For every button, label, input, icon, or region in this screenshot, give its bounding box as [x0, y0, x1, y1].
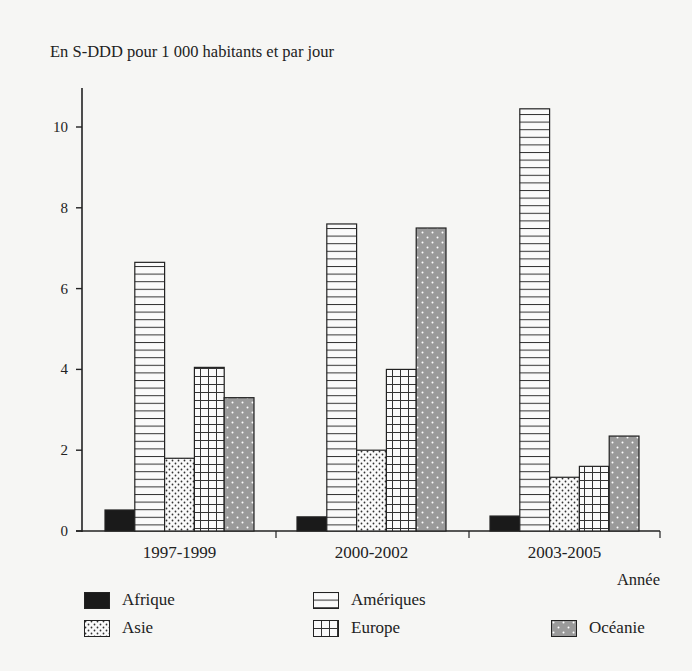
- legend-label: Océanie: [589, 618, 645, 638]
- x-category-label: 2000-2002: [335, 543, 409, 562]
- bar-chart: 0246810 1997-19992000-20022003-2005Année: [0, 0, 692, 671]
- y-tick-label: 10: [53, 119, 68, 135]
- bar-europe-2003-2005: [579, 466, 609, 531]
- y-tick-label: 0: [61, 523, 69, 539]
- y-tick-label: 6: [61, 281, 69, 297]
- ameriques-swatch-icon: [313, 592, 339, 609]
- x-axis-labels: 1997-19992000-20022003-2005Année: [143, 543, 660, 589]
- y-tick-label: 4: [61, 361, 69, 377]
- bar-oceanie-2003-2005: [609, 436, 639, 531]
- x-axis-title: Année: [617, 570, 660, 589]
- bar-europe-1997-1999: [194, 367, 224, 531]
- legend-item-europe: Europe: [313, 618, 400, 638]
- legend-item-oceanie: Océanie: [551, 618, 645, 638]
- bars: [105, 109, 639, 531]
- bar-asie-2003-2005: [550, 477, 580, 531]
- x-category-label: 1997-1999: [143, 543, 217, 562]
- afrique-swatch-icon: [84, 592, 110, 609]
- bar-ameriques-2003-2005: [520, 109, 550, 531]
- bar-oceanie-2000-2002: [416, 228, 446, 531]
- x-category-label: 2003-2005: [528, 543, 602, 562]
- legend-label: Asie: [122, 618, 153, 638]
- bar-afrique-2000-2002: [297, 517, 327, 531]
- bar-asie-2000-2002: [357, 450, 387, 531]
- legend-label: Afrique: [122, 590, 175, 610]
- y-tick-label: 8: [61, 200, 69, 216]
- legend-label: Europe: [351, 618, 400, 638]
- legend-label: Amériques: [351, 590, 426, 610]
- europe-swatch-icon: [313, 620, 339, 637]
- asie-swatch-icon: [84, 620, 110, 637]
- bar-asie-1997-1999: [165, 458, 195, 531]
- legend-item-ameriques: Amériques: [313, 590, 426, 610]
- legend-item-afrique: Afrique: [84, 590, 175, 610]
- bar-oceanie-1997-1999: [224, 398, 254, 531]
- y-tick-label: 2: [61, 442, 69, 458]
- bar-europe-2000-2002: [386, 369, 416, 531]
- bar-ameriques-2000-2002: [327, 224, 357, 531]
- bar-afrique-2003-2005: [490, 516, 520, 531]
- bar-afrique-1997-1999: [105, 510, 135, 531]
- legend-item-asie: Asie: [84, 618, 153, 638]
- oceanie-swatch-icon: [551, 620, 577, 637]
- bar-ameriques-1997-1999: [135, 262, 165, 531]
